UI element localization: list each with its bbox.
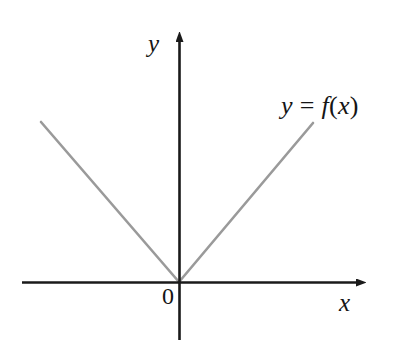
graph-canvas: [0, 0, 393, 351]
equation-open-paren: (: [329, 91, 338, 120]
equation-y: y: [281, 91, 293, 120]
y-axis-label: y: [148, 31, 159, 56]
function-equation-label: y = f(x): [281, 93, 359, 119]
x-axis-label: x: [339, 290, 350, 315]
equation-x: x: [338, 91, 350, 120]
origin-label: 0: [162, 284, 174, 308]
equation-f: f: [321, 91, 329, 120]
equation-equals: =: [293, 91, 322, 120]
function-graph-figure: y x 0 y = f(x): [0, 0, 393, 351]
equation-close-paren: ): [350, 91, 359, 120]
function-curve: [41, 122, 313, 282]
